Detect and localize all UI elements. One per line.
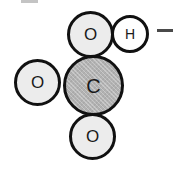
atom-oxygen-left: O — [14, 59, 61, 106]
atom-oxygen-top: O — [67, 11, 114, 58]
atom-hydrogen-right: H — [111, 15, 149, 53]
atom-oxygen-bottom: O — [69, 113, 116, 160]
molecule-figure: O H O C O — [0, 0, 192, 170]
scan-edge-artifact — [21, 0, 38, 3]
atom-carbon-center: C — [63, 55, 124, 116]
negative-charge-symbol — [157, 29, 173, 32]
